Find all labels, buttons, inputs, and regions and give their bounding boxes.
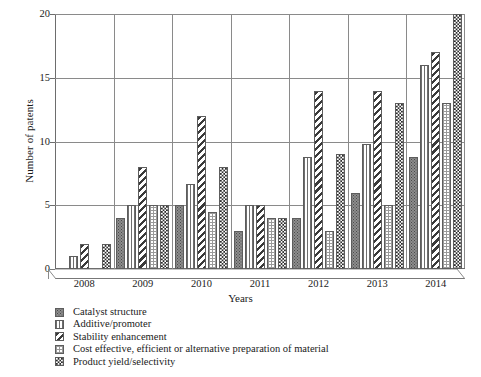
x-tick-label: 2010	[191, 278, 212, 289]
legend-item-label: Additive/promoter	[73, 319, 151, 330]
bar	[351, 193, 360, 270]
bar	[303, 157, 312, 269]
x-axis-title: Years	[0, 292, 481, 304]
legend-item[interactable]: Catalyst structure	[55, 306, 475, 318]
bar	[102, 244, 111, 270]
x-tick-label: 2008	[74, 278, 95, 289]
x-tick-label: 2013	[367, 278, 388, 289]
bar	[325, 231, 334, 269]
legend-item[interactable]: Cost effective, efficient or alternative…	[55, 343, 475, 355]
bar	[278, 218, 287, 269]
y-axis-tick-labels: 05101520	[24, 0, 50, 300]
bar-group	[116, 14, 169, 269]
bar	[160, 205, 169, 269]
bar	[175, 205, 184, 269]
bar-group	[409, 14, 462, 269]
bar	[186, 184, 195, 269]
plot-area: Number of patents 05101520 2008200920102…	[0, 0, 481, 300]
bar	[245, 205, 254, 269]
bar	[149, 205, 158, 269]
legend-item-label: Stability enhancement	[73, 332, 167, 343]
bar	[80, 244, 89, 270]
bar-series-layer	[55, 14, 465, 269]
legend-swatch-icon	[55, 308, 64, 317]
bar	[219, 167, 228, 269]
y-tick-label: 5	[24, 200, 50, 211]
y-tick-label: 15	[24, 73, 50, 84]
bar	[69, 256, 78, 269]
bar	[314, 91, 323, 270]
bar	[336, 154, 345, 269]
bar	[395, 103, 404, 269]
bar	[116, 218, 125, 269]
bar	[362, 144, 371, 269]
bar	[208, 212, 217, 269]
bar-group	[234, 14, 287, 269]
bar	[127, 205, 136, 269]
y-tick-label: 20	[24, 9, 50, 20]
legend-item[interactable]: Additive/promoter	[55, 318, 475, 330]
bar	[420, 65, 429, 269]
bar	[292, 218, 301, 269]
bar	[197, 116, 206, 269]
bar-group	[351, 14, 404, 269]
legend-item-label: Cost effective, efficient or alternative…	[73, 344, 329, 355]
bar	[234, 231, 243, 269]
bar	[431, 52, 440, 269]
legend-swatch-icon	[55, 357, 64, 366]
x-tick-label: 2014	[425, 278, 446, 289]
patents-by-year-bar-chart: Number of patents 05101520 2008200920102…	[0, 0, 481, 377]
x-tick-label: 2009	[132, 278, 153, 289]
y-tick-label: 0	[24, 264, 50, 275]
legend-swatch-icon	[55, 332, 64, 341]
legend-item-label: Catalyst structure	[73, 307, 147, 318]
bar-group	[58, 14, 111, 269]
legend-item-label: Product yield/selectivity	[73, 357, 175, 368]
bar	[453, 14, 462, 269]
bar	[256, 205, 265, 269]
bar	[138, 167, 147, 269]
x-tick-label: 2012	[308, 278, 329, 289]
legend: Catalyst structureAdditive/promoterStabi…	[55, 306, 475, 368]
bar	[384, 205, 393, 269]
bar-group	[292, 14, 345, 269]
legend-item[interactable]: Product yield/selectivity	[55, 356, 475, 368]
x-tick-label: 2011	[250, 278, 271, 289]
legend-item[interactable]: Stability enhancement	[55, 331, 475, 343]
bar	[267, 218, 276, 269]
legend-swatch-icon	[55, 320, 64, 329]
bar	[373, 91, 382, 270]
bar	[442, 103, 451, 269]
y-tick-label: 10	[24, 136, 50, 147]
bar-group	[175, 14, 228, 269]
bar	[409, 157, 418, 269]
legend-swatch-icon	[55, 345, 64, 354]
